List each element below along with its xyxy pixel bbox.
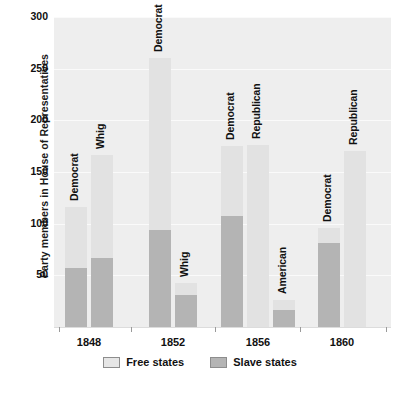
y-tick-label-300: 300: [8, 10, 48, 22]
legend-item-free: Free states: [103, 356, 184, 368]
legend-swatch-free: [103, 357, 120, 368]
x-tick-mark-4: [386, 327, 387, 332]
y-tick-label-100: 100: [8, 217, 48, 229]
x-tick-mark-1: [131, 327, 132, 332]
y-tick-label-250: 250: [8, 62, 48, 74]
y-tick-label-150: 150: [8, 165, 48, 177]
legend-swatch-slave: [210, 357, 227, 368]
legend-item-slave: Slave states: [210, 356, 297, 368]
x-tick-label-1848: 1848: [77, 336, 101, 348]
x-tick-label-1852: 1852: [161, 336, 185, 348]
x-tick-label-1856: 1856: [246, 336, 270, 348]
legend-label-free: Free states: [126, 356, 184, 368]
y-tick-label-200: 200: [8, 113, 48, 125]
x-tick-mark-0: [59, 327, 60, 332]
x-tick-mark-3: [300, 327, 301, 332]
legend-label-slave: Slave states: [233, 356, 297, 368]
x-tick-mark-2: [215, 327, 216, 332]
y-tick-label-50: 50: [8, 268, 48, 280]
x-tick-label-1860: 1860: [330, 336, 354, 348]
chart-legend: Free statesSlave states: [0, 356, 400, 368]
chart-root: Party members in House of Representative…: [0, 0, 400, 400]
